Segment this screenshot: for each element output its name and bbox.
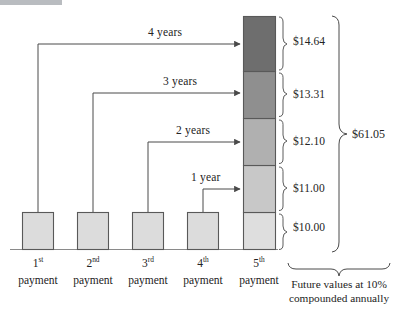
arrow-1-year [203, 189, 240, 212]
arrow-label-4-years: 4 years [148, 27, 182, 39]
stack-segment-11-00 [244, 166, 276, 213]
arrow-label-2-years: 2 years [176, 125, 210, 137]
total-brace [332, 16, 347, 252]
axis-payment-3: payment [120, 275, 176, 287]
stack-segment-13-31 [244, 72, 276, 119]
arrow-3-years [93, 93, 240, 212]
stack-segment-12-10 [244, 119, 276, 166]
axis-payment-4: payment [175, 275, 231, 287]
axis-payment-2: payment [65, 275, 121, 287]
payment-bar-1 [23, 213, 54, 250]
arrow-label-1-year: 1 year [191, 172, 221, 184]
segment-brace-11-00 [279, 167, 287, 211]
payment-bar-4 [188, 213, 219, 250]
axis-ordinal-1: 1st [10, 258, 66, 270]
payment-bar-2 [78, 213, 109, 250]
axis-ordinal-5: 5th [231, 258, 287, 270]
segment-brace-12-10 [279, 120, 287, 164]
payment-bar-3 [133, 213, 164, 250]
axis-ordinal-3: 3rd [120, 258, 176, 270]
axis-ordinal-3-suffix: rd [148, 255, 154, 264]
axis-ordinal-1-suffix: st [38, 255, 43, 264]
figure-caption: Future values at 10% compounded annually [279, 277, 399, 306]
axis-ordinal-4-suffix: th [203, 255, 209, 264]
segment-brace-13-31 [279, 73, 287, 117]
stacked-future-value-column [244, 17, 276, 250]
stack-segment-10-00 [244, 213, 276, 250]
value-label-14-64: $14.64 [293, 36, 325, 48]
total-future-value-label: $61.05 [352, 128, 385, 140]
arrow-label-3-years: 3 years [163, 76, 197, 88]
axis-ordinal-5-suffix: th [259, 255, 265, 264]
axis-ordinal-2-suffix: nd [92, 255, 99, 264]
axis-payment-1: payment [10, 275, 66, 287]
value-label-12-10: $12.10 [293, 136, 325, 148]
annuity-future-value-figure: 4 years 3 years 2 years 1 year $14.64 $1… [0, 0, 401, 331]
segment-brace-group [279, 17, 287, 250]
axis-ordinal-4: 4th [175, 258, 231, 270]
value-label-10-00: $10.00 [293, 222, 325, 234]
segment-brace-10-00 [279, 214, 287, 250]
caption-brace [288, 263, 390, 276]
value-label-13-31: $13.31 [293, 89, 325, 101]
axis-ordinal-2: 2nd [65, 258, 121, 270]
value-label-11-00: $11.00 [293, 183, 325, 195]
stack-segment-14-64 [244, 17, 276, 72]
segment-brace-14-64 [279, 17, 287, 70]
